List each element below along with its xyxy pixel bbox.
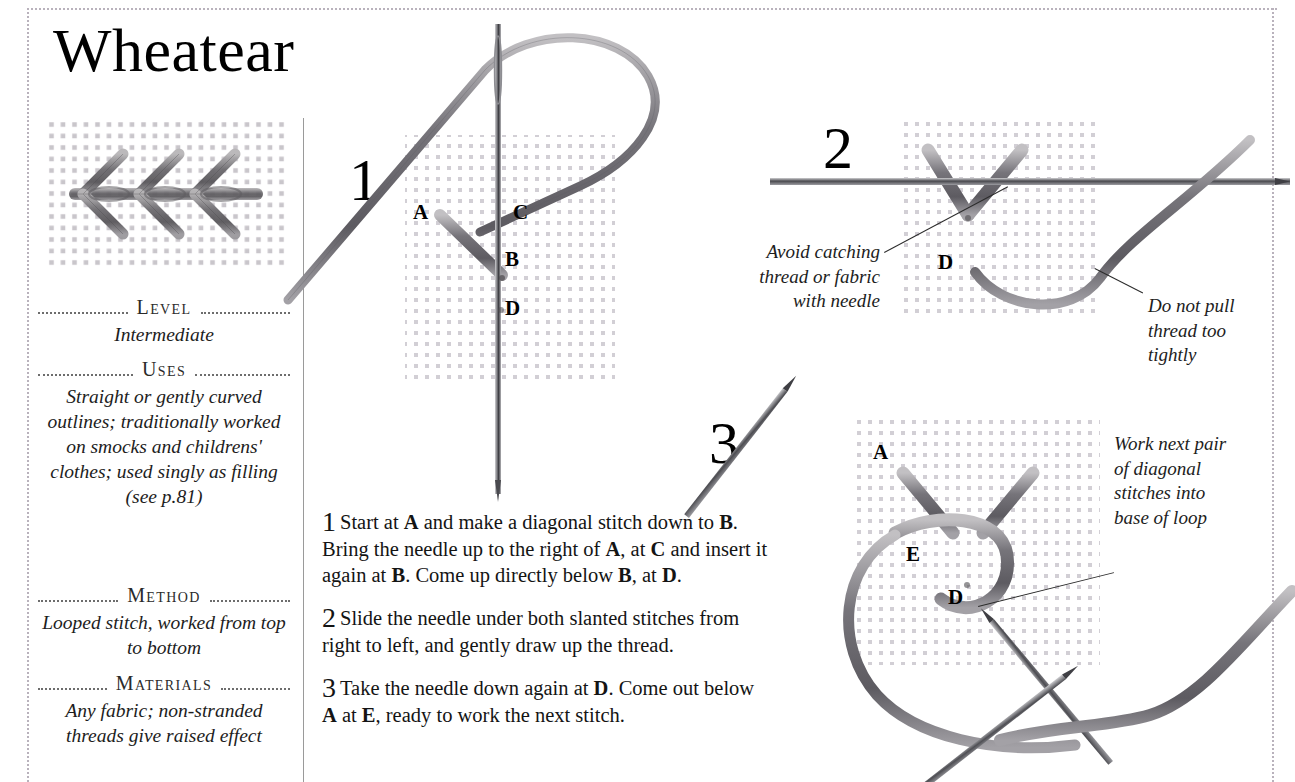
step-1-ref-b2: B: [391, 564, 405, 586]
page-border-left: [27, 8, 29, 782]
sidebar-heading-materials: Materials: [38, 672, 290, 695]
step-1-t12: , at: [632, 564, 662, 586]
diagram-1-illustration: [280, 10, 700, 510]
sidebar-section-materials: Materials Any fabric; non-stranded threa…: [38, 672, 290, 749]
sidebar-body-level: Intermediate: [38, 323, 290, 348]
step-3-ref-e: E: [362, 704, 376, 726]
dot-leader-left: [38, 374, 133, 376]
step-3-t6: , ready to work the next stitch.: [376, 704, 625, 726]
dot-leader-left: [38, 312, 128, 314]
step-3-ref-a: A: [322, 704, 337, 726]
step-2-t0: Slide the needle under both slanted stit…: [322, 607, 739, 656]
dot-leader-left: [38, 688, 107, 690]
diagram-1-label-b: B: [505, 247, 519, 272]
step-2-number: 2: [322, 602, 340, 633]
sidebar-section-method: Method Looped stitch, worked from top to…: [38, 584, 290, 661]
page-title: Wheatear: [53, 19, 294, 81]
step-1-number: 1: [322, 506, 340, 537]
dot-leader-right: [201, 312, 291, 314]
sidebar-heading-level: Level: [38, 296, 290, 319]
sidebar-section-level: Level Intermediate: [38, 296, 290, 348]
diagram-2-label-d: D: [938, 250, 953, 275]
diagram-3-label-e: E: [906, 542, 920, 567]
step-1-ref-a1: A: [404, 511, 419, 533]
callout-avoid-catching: Avoid catching thread or fabric with nee…: [740, 240, 880, 314]
sidebar-body-uses: Straight or gently curved outlines; trad…: [38, 385, 290, 510]
diagram-3-label-d: D: [948, 585, 963, 610]
sidebar-body-method: Looped stitch, worked from top to bottom: [38, 611, 290, 661]
sidebar-heading-method: Method: [38, 584, 290, 607]
wheatear-stitch-sample: [47, 120, 285, 268]
step-1-t10: . Come up directly below: [405, 564, 618, 586]
step-1-ref-a2: A: [606, 538, 621, 560]
dot-leader-right: [221, 688, 290, 690]
callout-do-not-pull: Do not pull thread too tightly: [1148, 294, 1268, 368]
step-1-t2: and make a diagonal stitch down to: [419, 511, 720, 533]
instruction-step-3: 3Take the needle down again at D. Come o…: [322, 674, 774, 728]
loose-thread-illustration: [1000, 575, 1295, 782]
callout-work-next-pair: Work next pair of diagonal stitches into…: [1114, 432, 1234, 531]
instruction-list: 1Start at A and make a diagonal stitch d…: [322, 508, 774, 744]
diagram-1-label-d: D: [505, 296, 520, 321]
sidebar-section-uses: Uses Straight or gently curved outlines;…: [38, 358, 290, 510]
step-1-ref-b1: B: [719, 511, 733, 533]
diagram-1-label-a: A: [413, 200, 428, 225]
step-3-number: 3: [322, 672, 340, 703]
step-1-t6: , at: [620, 538, 650, 560]
sidebar-body-materials: Any fabric; non-stranded threads give ra…: [38, 699, 290, 749]
instruction-step-1: 1Start at A and make a diagonal stitch d…: [322, 508, 774, 588]
dot-leader-left: [38, 600, 118, 602]
sidebar-heading-uses: Uses: [38, 358, 290, 381]
step-1-t14: .: [677, 564, 682, 586]
step-3-t0: Take the needle down again at: [340, 677, 594, 699]
step-3-t4: at: [337, 704, 362, 726]
diagram-1-label-c: C: [513, 200, 528, 225]
step-1-ref-c: C: [651, 538, 666, 560]
dot-leader-right: [195, 374, 290, 376]
step-1-ref-b3: B: [618, 564, 632, 586]
dot-leader-right: [210, 600, 290, 602]
stitch-guide-page: Wheatear: [0, 0, 1295, 782]
diagram-3-label-a: A: [873, 440, 888, 465]
instruction-step-2: 2Slide the needle under both slanted sti…: [322, 604, 774, 658]
step-3-t2: . Come out below: [608, 677, 754, 699]
step-1-t0: Start at: [340, 511, 404, 533]
step-1-ref-d: D: [662, 564, 677, 586]
step-3-ref-d: D: [594, 677, 609, 699]
